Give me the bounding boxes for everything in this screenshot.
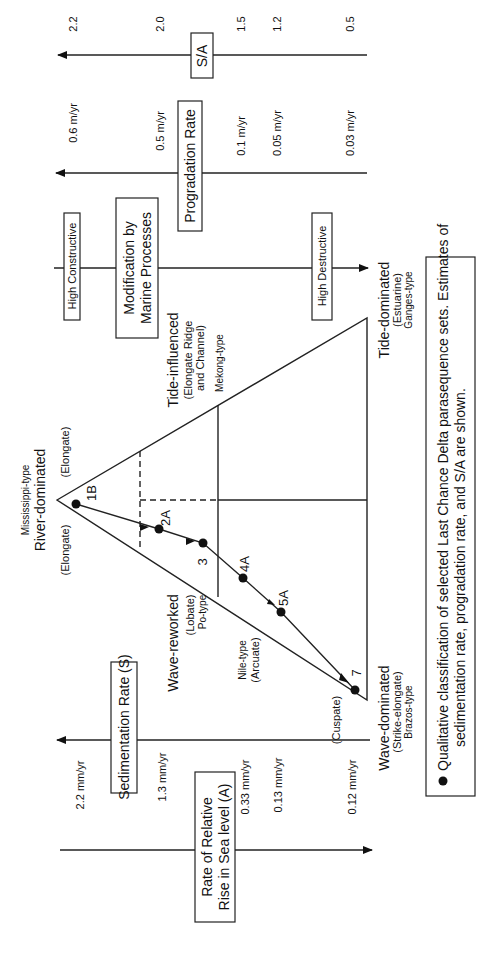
progradation-tick: 0.1 m/yr [235, 116, 247, 156]
progradation-tick: 0.6 m/yr [67, 103, 79, 143]
elongate-left-label: (Elongate) [59, 525, 71, 576]
high-constructive-label: High Constructive [66, 223, 78, 310]
tide-dominated-label: Tide-dominated [376, 262, 392, 359]
sa-tick: 1.5 [235, 16, 247, 31]
cuspate-label: (Cuspate) [330, 696, 342, 744]
po-type-label: Po-type [197, 594, 208, 629]
sa-label: S/A [194, 44, 210, 67]
point-label-2a: 2A [158, 510, 173, 526]
wave-reworked-label: Wave-reworked [165, 594, 181, 692]
arcuate-label: (Arcuate) [249, 637, 261, 682]
sedimentation-tick: 1.3 mm/yr [156, 752, 168, 801]
river-dominated-label: River-dominated [32, 449, 48, 552]
mississippi-type-label: Mississippi-type [20, 464, 31, 535]
sedimentation-label: Sedimentation Rate (S) [116, 654, 132, 800]
progradation-axis: Progradation Rate 0.6 m/yr 0.5 m/yr 0.1 … [56, 101, 367, 231]
point-label-4a: 4A [237, 556, 252, 572]
sedimentation-tick: 0.13 mm/yr [272, 757, 284, 812]
delta-classification-diagram: S/A 2.2 2.0 1.5 1.2 0.5 Progradation Rat… [0, 0, 491, 960]
point-label-5a: 5A [276, 590, 291, 606]
sa-tick: 0.5 [344, 16, 356, 31]
legend-line2: sedimentation rate, progradation rate, a… [452, 388, 468, 747]
progradation-label: Progradation Rate [182, 109, 198, 223]
sa-tick: 2.0 [154, 16, 166, 31]
point-label-1b: 1B [84, 485, 99, 501]
sealevel-axis: Rate of Relative Rise in Sea level (A) [60, 772, 372, 922]
brazos-type-label: Brazos-type [403, 685, 414, 739]
bullet-icon [439, 777, 448, 786]
marine-label-line2: Marine Processes [138, 212, 154, 324]
sedimentation-tick: 0.12 mm/yr [346, 759, 358, 814]
delta-triangle [57, 318, 367, 700]
wave-dominated-label: Wave-dominated [376, 665, 392, 770]
point-label-7: 7 [349, 669, 364, 676]
legend-line1: Qualitative classification of selected L… [435, 224, 451, 771]
strike-elongate-label: (Strike-elongate) [391, 671, 403, 752]
progradation-tick: 0.03 m/yr [344, 110, 356, 156]
estuarine-label: (Estuarine) [391, 273, 403, 327]
point-3 [199, 539, 208, 548]
point-1b [72, 500, 81, 509]
sedimentation-tick: 2.2 mm/yr [74, 760, 86, 809]
nile-type-label: Nile-type [237, 640, 248, 680]
tide-influenced-sub1: (Elongate Ridge [182, 321, 194, 400]
sa-axis: S/A 2.2 2.0 1.5 1.2 0.5 [58, 16, 367, 78]
point-4a [239, 574, 248, 583]
progradation-tick: 0.05 m/yr [271, 110, 283, 156]
sa-tick: 2.2 [67, 16, 79, 31]
progradation-tick: 0.5 m/yr [154, 111, 166, 151]
elongate-right-label: (Elongate) [59, 427, 71, 478]
sealevel-label-line2: Rise in Sea level (A) [216, 784, 232, 911]
mekong-type-label: Mekong-type [214, 334, 225, 392]
point-5a [277, 608, 286, 617]
high-destructive-label: High Destructive [316, 226, 328, 307]
sa-tick: 1.2 [271, 16, 283, 31]
lobate-label: (Lobate) [184, 595, 196, 636]
ganges-type-label: Ganges-type [403, 271, 414, 329]
sedimentation-tick: 0.33 mm/yr [239, 759, 251, 814]
point-label-3: 3 [195, 558, 210, 565]
tide-influenced-sub2: and Channel) [194, 325, 206, 391]
triangle-outline [57, 318, 367, 700]
legend: Qualitative classification of selected L… [426, 224, 475, 796]
marine-label-line1: Modification by [121, 221, 137, 314]
point-7 [351, 686, 360, 695]
sealevel-label-line1: Rate of Relative [199, 797, 215, 897]
marine-processes-axis: High Constructive Modification by Marine… [54, 198, 368, 338]
tide-influenced-label: Tide-influenced [165, 312, 181, 407]
